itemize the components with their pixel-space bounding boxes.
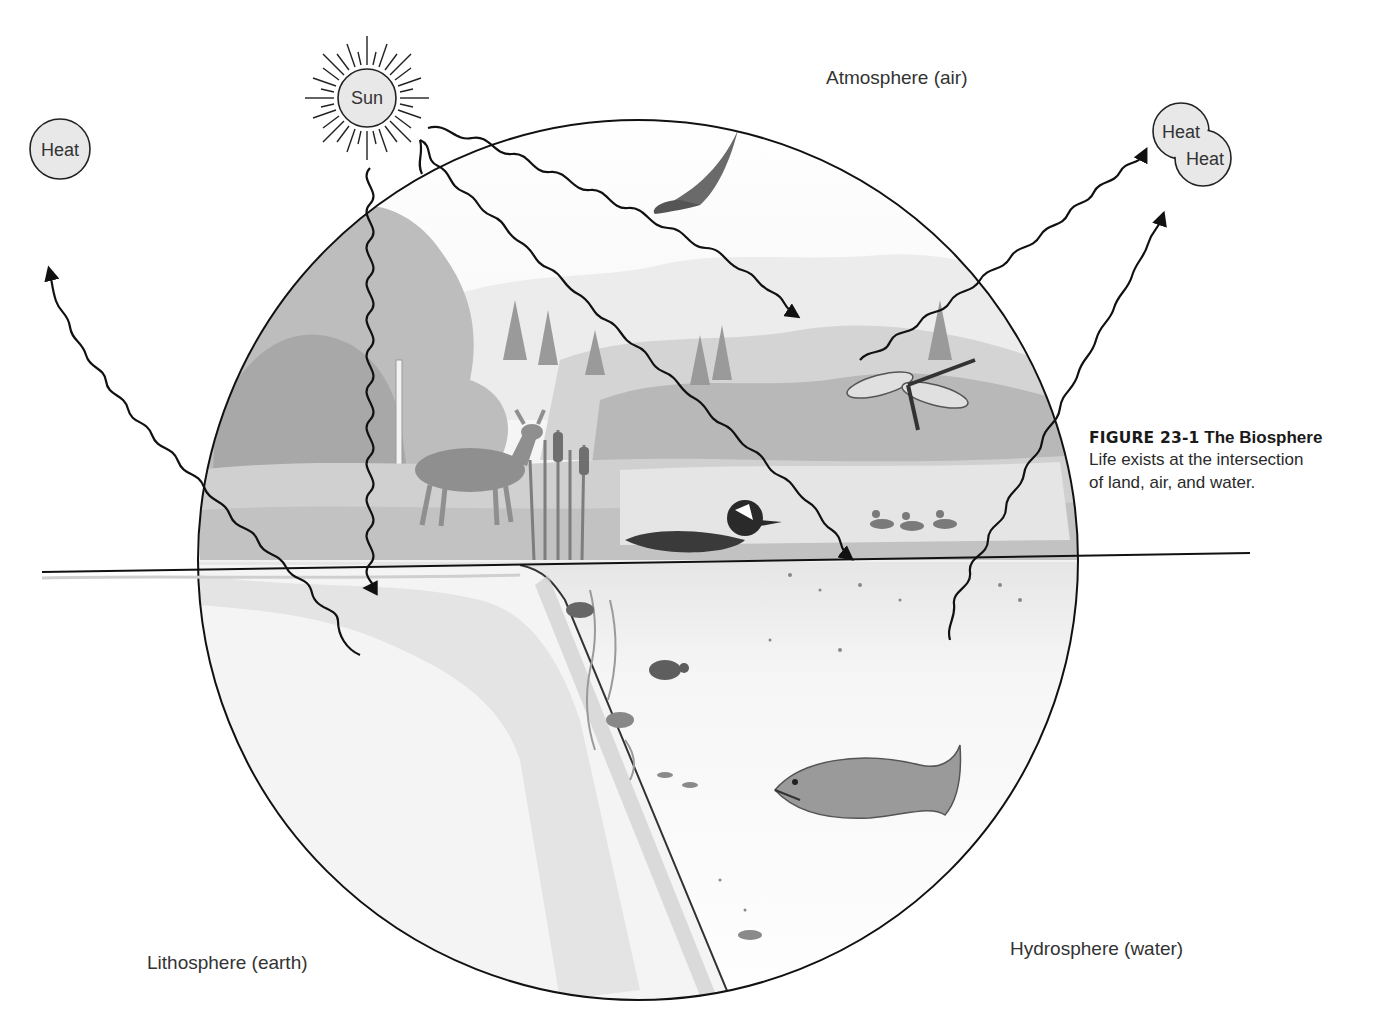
heat-right-label-2: Heat <box>1186 149 1224 169</box>
figure-title: The Biosphere <box>1204 428 1322 447</box>
sun-label: Sun <box>351 88 383 108</box>
figure-caption: FIGURE 23-1 The Biosphere Life exists at… <box>1089 428 1373 494</box>
biosphere-scene <box>190 110 1090 1022</box>
heat-bubble-right: Heat Heat <box>1153 103 1231 186</box>
lithosphere-label: Lithosphere (earth) <box>147 952 308 974</box>
caption-line-2: of land, air, and water. <box>1089 471 1373 494</box>
atmosphere-label: Atmosphere (air) <box>826 67 968 89</box>
heat-right-label-1: Heat <box>1162 122 1200 142</box>
figure-number: FIGURE 23-1 <box>1089 429 1200 447</box>
figure-title-line: FIGURE 23-1 The Biosphere <box>1089 428 1373 448</box>
biosphere-diagram: Sun Heat Heat Heat <box>0 0 1373 1029</box>
sun-icon: Sun <box>305 36 429 160</box>
caption-line-1: Life exists at the intersection <box>1089 448 1373 471</box>
heat-left-label: Heat <box>41 140 79 160</box>
shell <box>606 712 634 728</box>
hydrosphere-label: Hydrosphere (water) <box>1010 938 1183 960</box>
crayfish <box>566 602 594 618</box>
diagram-canvas: Sun Heat Heat Heat <box>0 0 1373 1029</box>
heat-bubble-left: Heat <box>30 119 90 179</box>
